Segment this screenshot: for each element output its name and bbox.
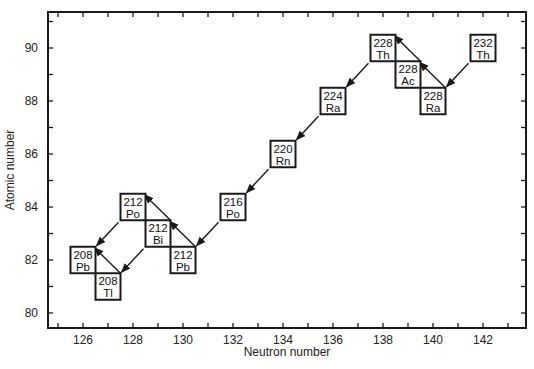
nuclide-ra224: 224Ra [321, 88, 346, 115]
mass-number: 216 [223, 196, 242, 208]
x-tick-label: 142 [473, 333, 493, 347]
element-symbol: Ra [426, 102, 441, 114]
nuclide-rn220: 220Rn [271, 141, 296, 168]
mass-number: 232 [473, 37, 492, 49]
nuclide-ra228: 228Ra [421, 88, 446, 115]
mass-number: 228 [398, 63, 417, 75]
mass-number: 228 [423, 90, 442, 102]
y-tick-label: 82 [25, 253, 39, 267]
decay-arrow-beta [145, 195, 171, 221]
decay-arrow-alpha [122, 249, 144, 273]
decay-arrow-alpha [347, 63, 369, 87]
x-tick-label: 138 [373, 333, 393, 347]
decay-arrow-beta [395, 36, 421, 62]
mass-number: 208 [98, 275, 117, 287]
nuclide-th232: 232Th [471, 35, 496, 62]
decay-arrow-beta [170, 221, 196, 247]
element-symbol: Th [376, 49, 389, 61]
y-axis-title: Atomic number [3, 130, 17, 211]
element-symbol: Po [126, 208, 140, 220]
mass-number: 228 [373, 37, 392, 49]
decay-chain-chart: 126128130132134136138140142 808284868890… [0, 0, 534, 369]
element-symbol: Rn [276, 155, 291, 167]
y-axis-tick-labels: 808284868890 [25, 41, 39, 320]
x-tick-label: 140 [423, 333, 443, 347]
mass-number: 220 [273, 143, 292, 155]
element-symbol: Ac [401, 75, 415, 87]
mass-number: 212 [173, 249, 192, 261]
element-symbol: Pb [176, 261, 190, 273]
decay-arrow-alpha [297, 116, 319, 140]
nuclide-po216: 216Po [221, 194, 246, 221]
nuclide-bi212: 212Bi [146, 220, 171, 247]
x-tick-label: 126 [73, 333, 93, 347]
nuclide-pb208: 208Pb [71, 247, 96, 274]
element-symbol: Pb [76, 261, 90, 273]
x-axis-ticks [58, 12, 508, 328]
element-symbol: Bi [153, 234, 163, 246]
element-symbol: Po [226, 208, 240, 220]
nuclide-pb212: 212Pb [171, 247, 196, 274]
x-tick-label: 132 [223, 333, 243, 347]
decay-arrow-alpha [447, 63, 469, 87]
nuclide-th228: 228Th [371, 35, 396, 62]
decay-arrow-alpha [97, 222, 119, 246]
x-axis-title: Neutron number [244, 345, 331, 359]
x-tick-label: 130 [173, 333, 193, 347]
decay-arrow-beta [95, 248, 121, 274]
mass-number: 208 [73, 249, 92, 261]
x-tick-label: 128 [123, 333, 143, 347]
mass-number: 212 [123, 196, 142, 208]
y-tick-label: 84 [25, 200, 39, 214]
y-tick-label: 80 [25, 306, 39, 320]
y-tick-label: 86 [25, 147, 39, 161]
decay-arrow-alpha [197, 222, 219, 246]
nuclide-tl208: 208Tl [96, 273, 121, 300]
nuclide-ac228: 228Ac [396, 61, 421, 88]
mass-number: 224 [323, 90, 343, 102]
element-symbol: Th [476, 49, 489, 61]
mass-number: 212 [148, 222, 167, 234]
y-tick-label: 88 [25, 94, 39, 108]
decay-arrow-alpha [247, 169, 269, 193]
decay-arrow-beta [420, 62, 446, 88]
element-symbol: Ra [326, 102, 341, 114]
nuclide-po212: 212Po [121, 194, 146, 221]
element-symbol: Tl [103, 287, 113, 299]
y-tick-label: 90 [25, 41, 39, 55]
